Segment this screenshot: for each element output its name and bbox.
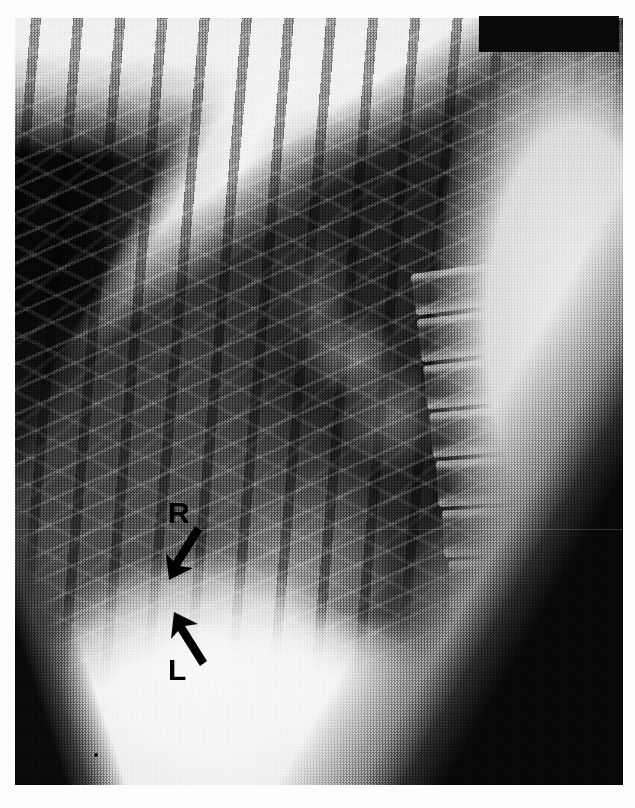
- radiograph-page: R L: [0, 0, 635, 808]
- marker-arrow-r-down-icon: [155, 522, 211, 584]
- film-grain-fine-layer: [15, 18, 623, 785]
- radiograph-plate: [15, 18, 623, 785]
- marker-letter-l: L: [168, 655, 186, 685]
- scan-seam-line: [15, 529, 623, 530]
- film-artifact-speck: [94, 753, 98, 757]
- patient-identifier-redaction: [479, 16, 619, 52]
